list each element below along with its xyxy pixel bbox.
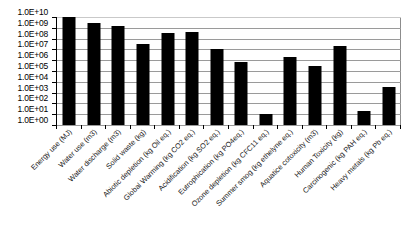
bar[interactable] bbox=[136, 44, 149, 125]
bar-slot bbox=[155, 17, 180, 125]
bar[interactable] bbox=[112, 26, 125, 125]
y-axis-tick-label: 1.0E+06 bbox=[17, 51, 48, 60]
y-axis-tick-label: 1.0E+08 bbox=[17, 30, 48, 39]
bar[interactable] bbox=[161, 33, 174, 125]
x-axis-category-label: Energy use (MJ) bbox=[30, 128, 74, 172]
bar-slot bbox=[180, 17, 205, 125]
log-bar-chart: 1.0E+101.0E+091.0E+081.0E+071.0E+061.0E+… bbox=[0, 0, 413, 232]
bar-slot bbox=[278, 17, 303, 125]
x-axis-category-labels: Energy use (MJ)Water use (m3)Water disch… bbox=[0, 128, 413, 232]
bars-layer bbox=[57, 17, 401, 125]
y-axis-tick-label: 1.0E+03 bbox=[17, 84, 48, 93]
y-axis-tick-label: 1.0E+07 bbox=[17, 40, 48, 49]
bar[interactable] bbox=[382, 87, 395, 125]
bar[interactable] bbox=[259, 114, 272, 125]
bar[interactable] bbox=[358, 111, 371, 125]
y-axis-tick-label: 1.0E+05 bbox=[17, 62, 48, 71]
bar[interactable] bbox=[87, 23, 100, 125]
y-axis-tick-label: 1.0E+10 bbox=[17, 8, 48, 17]
bar-slot bbox=[327, 17, 352, 125]
bar-slot bbox=[254, 17, 279, 125]
bar[interactable] bbox=[284, 57, 297, 125]
bar-slot bbox=[57, 17, 82, 125]
y-axis-tick-label: 1.0E+09 bbox=[17, 19, 48, 28]
y-axis-tick-label: 1.0E+00 bbox=[17, 116, 48, 125]
bar-slot bbox=[352, 17, 377, 125]
y-axis-tick-label: 1.0E+02 bbox=[17, 94, 48, 103]
y-axis-tick-label: 1.0E+01 bbox=[17, 105, 48, 114]
bar-slot bbox=[131, 17, 156, 125]
bar[interactable] bbox=[63, 17, 76, 125]
bar-slot bbox=[106, 17, 131, 125]
bar-slot bbox=[303, 17, 328, 125]
bar-slot bbox=[229, 17, 254, 125]
plot-area bbox=[56, 17, 401, 126]
y-axis-tick-label: 1.0E+04 bbox=[17, 73, 48, 82]
bar[interactable] bbox=[235, 62, 248, 125]
bar[interactable] bbox=[186, 32, 199, 125]
bar-slot bbox=[376, 17, 401, 125]
bar-slot bbox=[82, 17, 107, 125]
bar-slot bbox=[204, 17, 229, 125]
bar[interactable] bbox=[210, 49, 223, 125]
y-axis-tick-labels: 1.0E+101.0E+091.0E+081.0E+071.0E+061.0E+… bbox=[0, 12, 50, 126]
bar[interactable] bbox=[333, 46, 346, 125]
bar[interactable] bbox=[308, 66, 321, 125]
